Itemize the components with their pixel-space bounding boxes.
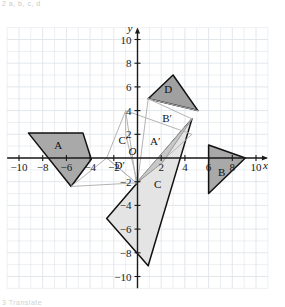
shape-label-A: A [54,139,62,151]
graph-canvas: −10−8−6−4−2246810−10−8−6−4−2246810Oxy AB… [0,8,285,296]
shape-label-B-prime: B′ [162,112,172,124]
axis-lines [7,28,268,289]
top-caption: 2 a, b, c, d [2,0,41,7]
shape-B [209,145,246,194]
shape-label-D-prime: D′ [115,159,125,171]
x-tick-label: 8 [230,161,236,173]
x-tick-label: −8 [37,161,49,173]
shape-label-B: B [218,166,225,178]
coordinate-plane-figure: 2 a, b, c, d 3 Translate −10−8−6−4−22468… [0,0,285,307]
x-tick-label: −4 [84,161,96,173]
y-axis-arrow [135,28,140,34]
y-tick-label: 6 [126,81,132,93]
shape-label-C-prime: C′ [118,134,128,146]
y-tick-label: −2 [120,176,132,188]
x-tick-label: 2 [158,161,164,173]
x-tick-label: 6 [206,161,212,173]
y-tick-label: −10 [114,271,132,283]
y-axis-name: y [127,22,133,34]
y-tick-label: 10 [121,34,133,46]
bottom-caption: 3 Translate [2,299,42,306]
x-tick-label: 4 [182,161,188,173]
x-tick-label: −10 [10,161,28,173]
y-tick-label: 4 [126,105,132,117]
y-tick-label: −8 [120,247,132,259]
coordinate-grid-svg: −10−8−6−4−2246810−10−8−6−4−2246810Oxy AB… [0,8,285,296]
shape-D [148,75,198,111]
y-tick-label: 8 [126,57,132,69]
x-tick-label: 10 [251,161,263,173]
shape-label-A-prime: A′ [150,135,160,147]
x-tick-label: −6 [61,161,73,173]
y-tick-label: −4 [120,199,132,211]
shape-label-D: D [164,83,172,95]
origin-label: O [129,145,137,157]
x-axis-name: x [262,159,268,171]
y-tick-label: −6 [120,223,132,235]
shape-label-C: C [154,178,161,190]
